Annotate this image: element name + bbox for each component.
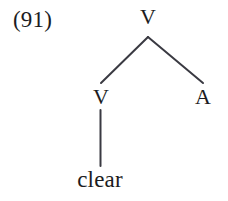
tree-node-right-a: A bbox=[195, 86, 211, 108]
branch-root-to-right-a bbox=[148, 37, 203, 83]
syntax-tree-figure: (91) V V A clear bbox=[0, 0, 228, 201]
example-number-label: (91) bbox=[13, 8, 52, 31]
branch-root-to-left-v bbox=[101, 37, 148, 83]
tree-node-left-v: V bbox=[93, 86, 109, 108]
tree-node-root-v: V bbox=[140, 6, 156, 28]
tree-terminal-clear: clear bbox=[77, 168, 123, 191]
